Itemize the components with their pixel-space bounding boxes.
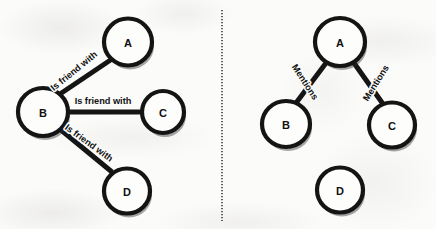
node-d-right-label: D xyxy=(336,185,344,197)
edge-label-a-b: Mentions xyxy=(290,62,320,101)
node-b-left[interactable]: B xyxy=(18,88,70,140)
node-c-right[interactable]: C xyxy=(369,103,417,152)
node-b-right[interactable]: B xyxy=(262,101,312,151)
node-c-left[interactable]: C xyxy=(142,91,186,137)
diagram-canvas: A B C D Is friend with Is fri xyxy=(0,0,436,229)
node-b-right-label: B xyxy=(282,119,290,131)
edge-label-b-c: Is friend with xyxy=(75,96,132,106)
node-d-left-label: D xyxy=(123,186,131,198)
node-a-left-label: A xyxy=(124,37,132,49)
panel-friendship-graph: A B C D Is friend with Is fri xyxy=(18,19,186,218)
node-a-left[interactable]: A xyxy=(104,19,154,70)
edge-label-b-d: Is friend with xyxy=(63,122,115,164)
panel-mentions-graph: A B C D Mentions Mentions xyxy=(262,18,417,217)
node-a-right[interactable]: A xyxy=(315,18,367,70)
node-c-left-label: C xyxy=(159,107,167,119)
graph-svg: A B C D Is friend with Is fri xyxy=(0,0,436,229)
node-a-right-label: A xyxy=(336,37,344,49)
node-c-right-label: C xyxy=(388,120,396,132)
node-b-left-label: B xyxy=(39,107,47,119)
node-d-right[interactable]: D xyxy=(317,168,365,217)
node-d-left[interactable]: D xyxy=(104,169,152,218)
